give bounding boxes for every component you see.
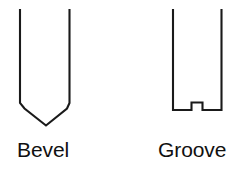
groove-label: Groove [158,139,226,160]
groove-profile-shape [173,9,222,110]
diagram-figure: Bevel Groove [0,0,252,172]
bevel-label: Bevel [17,139,69,160]
bevel-profile-shape [20,9,70,126]
